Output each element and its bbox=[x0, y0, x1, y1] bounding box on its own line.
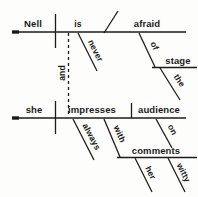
word-impresses: impresses bbox=[68, 104, 116, 115]
diagram-canvas: Nell is afraid never of stage the and bbox=[0, 0, 198, 197]
word-comments: comments bbox=[132, 145, 180, 156]
word-always: always bbox=[80, 122, 102, 152]
word-witty: witty bbox=[174, 161, 193, 184]
predicate-adjective-divider-1 bbox=[104, 11, 118, 33]
word-of: of bbox=[148, 40, 161, 52]
word-stage: stage bbox=[165, 55, 190, 66]
word-nell: Nell bbox=[24, 18, 42, 29]
sentence-diagram: Nell is afraid never of stage the and bbox=[0, 0, 198, 197]
word-on: on bbox=[166, 123, 180, 137]
word-never: never bbox=[86, 38, 106, 64]
word-is: is bbox=[74, 19, 81, 29]
word-she: she bbox=[26, 104, 43, 115]
word-afraid: afraid bbox=[134, 18, 161, 29]
word-audience: audience bbox=[138, 104, 180, 115]
clause-1-group: Nell is afraid never of stage the bbox=[12, 11, 197, 100]
word-the: the bbox=[172, 72, 188, 89]
conjunction-group: and bbox=[57, 33, 69, 117]
word-and: and bbox=[57, 65, 67, 81]
clause-2-group: she impresses audience always with comme… bbox=[12, 101, 197, 192]
